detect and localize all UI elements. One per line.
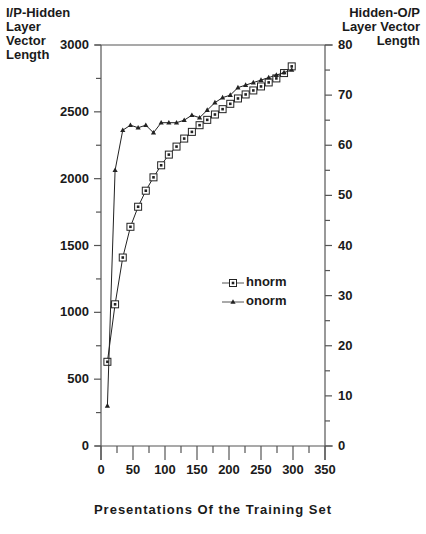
hnorm-marker-dot — [114, 303, 117, 306]
y-right-tick-label: 10 — [338, 388, 352, 403]
hnorm-marker-dot — [267, 81, 270, 84]
hnorm-marker-dot — [229, 103, 232, 106]
legend-onorm-label: onorm — [246, 293, 286, 308]
hnorm-marker-dot — [137, 205, 140, 208]
hnorm-marker-dot — [175, 145, 178, 148]
legend-hnorm-label: hnorm — [246, 274, 286, 289]
hnorm-marker-dot — [206, 119, 209, 122]
hnorm-marker-dot — [260, 85, 263, 88]
y-right-tick-label: 0 — [338, 438, 345, 453]
onorm-marker — [112, 168, 117, 173]
onorm-marker — [182, 117, 187, 122]
onorm-marker — [105, 403, 110, 408]
hnorm-marker-dot — [129, 225, 132, 228]
hnorm-marker-dot — [121, 256, 124, 259]
x-tick-label: 350 — [305, 462, 345, 477]
series-hnorm-line — [107, 66, 291, 361]
y-right-tick-label: 60 — [338, 137, 352, 152]
y-right-tick-label: 20 — [338, 338, 352, 353]
hnorm-marker-dot — [244, 93, 247, 96]
y-left-tick-label: 1000 — [60, 304, 89, 319]
hnorm-marker-dot — [168, 153, 171, 156]
onorm-marker — [120, 127, 125, 132]
y-right-tick-label: 80 — [338, 37, 352, 52]
legend-hnorm-marker-dot — [232, 282, 235, 285]
onorm-marker — [143, 122, 148, 127]
chart-plot — [0, 0, 426, 534]
onorm-marker — [212, 100, 217, 105]
hnorm-marker-dot — [183, 137, 186, 140]
hnorm-marker-dot — [214, 113, 217, 116]
hnorm-marker-dot — [191, 131, 194, 134]
y-left-tick-label: 2500 — [60, 104, 89, 119]
hnorm-marker-dot — [160, 164, 163, 167]
y-left-tick-label: 3000 — [60, 37, 89, 52]
x-axis-title: Presentations Of the Training Set — [0, 502, 426, 517]
series-onorm-line — [107, 70, 291, 406]
hnorm-marker-dot — [252, 89, 255, 92]
hnorm-marker-dot — [275, 77, 278, 80]
onorm-marker — [189, 112, 194, 117]
y-left-tick-label: 500 — [67, 371, 89, 386]
hnorm-marker-dot — [145, 189, 148, 192]
hnorm-marker-dot — [198, 124, 201, 127]
y-right-tick-label: 50 — [338, 187, 352, 202]
hnorm-marker-dot — [237, 97, 240, 100]
y-left-tick-label: 0 — [82, 438, 89, 453]
y-left-tick-label: 2000 — [60, 171, 89, 186]
y-right-tick-label: 70 — [338, 87, 352, 102]
y-right-tick-label: 40 — [338, 238, 352, 253]
hnorm-marker-dot — [221, 108, 224, 111]
onorm-marker — [128, 122, 133, 127]
hnorm-marker-dot — [152, 176, 155, 179]
y-left-tick-label: 1500 — [60, 238, 89, 253]
y-right-tick-label: 30 — [338, 288, 352, 303]
